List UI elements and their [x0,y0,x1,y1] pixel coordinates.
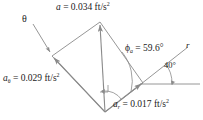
label-transverse-exponent: 2 [57,72,60,78]
label-transverse-acceleration: aθ = 0.029 ft/s2 [3,74,60,84]
label-transverse-subscript: θ [8,78,11,84]
label-transverse-equals: = [11,73,21,83]
label-phi-value: 59.6 [143,43,160,53]
theta-axis-line [33,24,50,52]
label-resultant-unit: ft/s [95,2,107,12]
label-resultant-value: 0.034 [71,2,92,12]
label-reference-angle: 40° [164,61,176,70]
label-phi-equals: = [133,43,143,53]
label-theta-axis: θ [22,14,27,24]
label-phi-subscript: a [130,48,133,54]
label-resultant-exponent: 2 [107,1,110,7]
label-radial-equals: = [120,99,130,109]
label-radial-acceleration: ar = 0.017 ft/s2 [113,100,169,110]
label-radial-exponent: 2 [166,98,169,104]
label-radial-value: 0.017 [130,99,151,109]
vector-a-resultant [100,25,105,112]
label-resultant-equals: = [61,2,71,12]
vector-a-theta [54,58,105,112]
label-radial-unit: ft/s [154,99,166,109]
label-phi-angle: ϕa = 59.6° [125,44,164,54]
label-resultant-acceleration: a = 0.034 ft/s2 [56,3,110,13]
label-transverse-value: 0.029 [21,73,42,83]
parallelogram-side-left-upper [52,22,100,56]
label-radial-subscript: r [118,104,120,110]
label-transverse-unit: ft/s [44,73,56,83]
acceleration-vector-diagram: a = 0.034 ft/s2 aθ = 0.029 ft/s2 ar = 0.… [0,0,203,120]
label-r-axis: r [186,41,190,50]
label-phi-degree: ° [160,43,164,53]
angle-arc-phi-a [122,52,132,92]
